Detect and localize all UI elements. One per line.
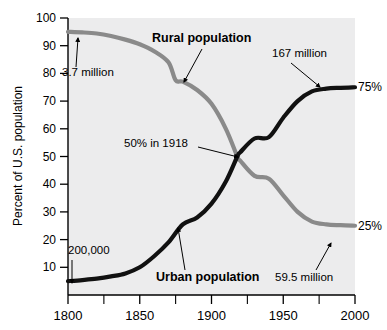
population-line-chart: 102030405060708090100 Percent of U.S. po… bbox=[0, 0, 387, 330]
x-tick-label: 1900 bbox=[197, 308, 226, 323]
x-tick-label: 1800 bbox=[54, 308, 83, 323]
annotation-urban-end-value: 167 million bbox=[272, 47, 327, 59]
annotation-rural-end-value: 59.5 million bbox=[275, 271, 333, 283]
y-tick-label: 60 bbox=[43, 122, 57, 136]
urban-endpoint-pct: 75% bbox=[358, 80, 382, 94]
annotation-urban-series-label: Urban population bbox=[156, 270, 259, 284]
annotation-urban-start-value: 200,000 bbox=[68, 244, 110, 256]
y-tick-label: 50 bbox=[43, 150, 57, 164]
x-tick-label: 2000 bbox=[341, 308, 370, 323]
y-axis-tick-labels: 102030405060708090100 bbox=[36, 11, 56, 274]
y-tick-label: 100 bbox=[36, 11, 56, 25]
rural-endpoint-pct: 25% bbox=[358, 219, 382, 233]
plot-area-background bbox=[68, 18, 355, 295]
annotation-rural-start-value: 3.7 million bbox=[62, 66, 114, 78]
y-tick-label: 30 bbox=[43, 205, 57, 219]
x-tick-label: 1850 bbox=[125, 308, 154, 323]
x-axis-tick-labels: 18001850190019502000 bbox=[54, 308, 370, 323]
y-tick-label: 20 bbox=[43, 233, 57, 247]
x-tick-label: 1950 bbox=[269, 308, 298, 323]
y-tick-label: 40 bbox=[43, 177, 57, 191]
y-axis-title: Percent of U.S. population bbox=[11, 86, 25, 226]
y-tick-label: 70 bbox=[43, 94, 57, 108]
x-axis-ticks bbox=[68, 295, 355, 304]
endpoint-labels: 75% 25% bbox=[353, 80, 382, 233]
y-tick-label: 90 bbox=[43, 39, 57, 53]
annotation-rural-series-label: Rural population bbox=[152, 31, 251, 45]
chart-figure: 102030405060708090100 Percent of U.S. po… bbox=[0, 0, 387, 330]
y-axis-ticks bbox=[60, 18, 68, 267]
annotation-crossover-label: 50% in 1918 bbox=[124, 137, 188, 149]
y-tick-label: 10 bbox=[43, 260, 57, 274]
y-tick-label: 80 bbox=[43, 66, 57, 80]
